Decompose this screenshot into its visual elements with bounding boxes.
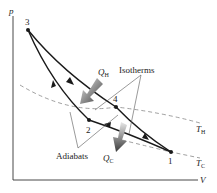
- isotherm-tc-dashed: [122, 140, 200, 158]
- qc-label: QC: [103, 153, 114, 164]
- curve-1-to-2: [89, 120, 171, 152]
- qh-arrow-icon: [80, 78, 103, 104]
- point-2: [87, 118, 91, 122]
- adiabat-leader-1: [70, 112, 78, 148]
- isotherm-leader-1: [95, 75, 141, 110]
- tc-label: TC: [196, 158, 205, 169]
- adiabat-leader-2: [78, 115, 118, 148]
- cycle-curves: [28, 30, 171, 152]
- point-4: [114, 105, 118, 109]
- point-label-2: 2: [86, 125, 91, 135]
- adiabats-label: Adiabats: [56, 151, 88, 161]
- point-3: [26, 28, 30, 32]
- y-axis-label: p: [8, 6, 14, 16]
- curve-2-to-3: [28, 30, 89, 120]
- x-axis-label: V: [200, 175, 207, 185]
- arrowhead-3-4: [66, 77, 74, 85]
- state-points: [26, 28, 173, 154]
- point-label-3: 3: [25, 17, 30, 27]
- heat-in-arrow: [80, 78, 103, 104]
- isotherms-label: Isotherms: [119, 65, 155, 75]
- th-label: TH: [196, 124, 206, 135]
- carnot-pv-diagram: p V 1 2 3 4: [0, 0, 217, 193]
- isotherm-th-dashed: [20, 85, 200, 123]
- heat-out-arrow: [113, 122, 127, 152]
- point-label-1: 1: [168, 156, 173, 166]
- qc-arrow-icon: [113, 122, 127, 152]
- qh-label: QH: [98, 67, 110, 78]
- point-1: [169, 150, 173, 154]
